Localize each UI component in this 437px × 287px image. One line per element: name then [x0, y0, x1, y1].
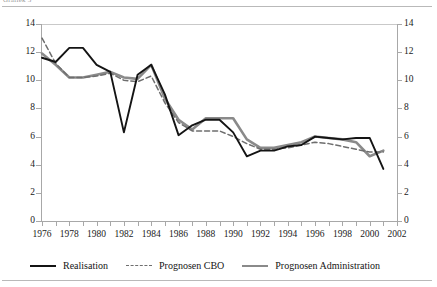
legend-item-prognosen-cbo[interactable]: Prognosen CBO: [126, 260, 224, 271]
x-tick-1993: [274, 221, 275, 226]
x-tick-1981: [110, 221, 111, 226]
y-tick-r-10: [397, 80, 402, 81]
x-tick-1977: [56, 221, 57, 226]
legend-label-prognosen-cbo: Prognosen CBO: [159, 260, 224, 271]
x-tick-1988: [206, 221, 207, 226]
y-axis-label-left-14: 14: [13, 19, 35, 29]
x-tick-2001: [383, 221, 384, 226]
y-axis-label-right-10: 10: [404, 75, 426, 85]
x-tick-1980: [97, 221, 98, 226]
x-tick-1989: [220, 221, 221, 226]
y-tick-l-4: [36, 165, 41, 166]
y-axis-label-right-4: 4: [404, 160, 426, 170]
y-tick-l-14: [36, 24, 41, 25]
y-tick-r-6: [397, 137, 402, 138]
y-tick-r-8: [397, 108, 402, 109]
series-line-prognosen-cbo: [42, 38, 383, 152]
legend-label-realisation: Realisation: [63, 260, 108, 271]
series-lines: [41, 24, 398, 222]
x-tick-1976: [42, 221, 43, 226]
y-axis-label-left-8: 8: [13, 103, 35, 113]
legend-swatch-prognosen-cbo: [126, 261, 152, 271]
legend-item-realisation[interactable]: Realisation: [30, 260, 108, 271]
y-axis-label-left-12: 12: [13, 47, 35, 57]
x-tick-1986: [179, 221, 180, 226]
x-tick-1979: [83, 221, 84, 226]
y-axis-label-right-14: 14: [404, 19, 426, 29]
series-line-realisation: [42, 48, 383, 169]
chart-legend: RealisationPrognosen CBOPrognosen Admini…: [0, 260, 437, 276]
x-tick-1994: [288, 221, 289, 226]
y-tick-r-12: [397, 52, 402, 53]
y-tick-l-8: [36, 108, 41, 109]
legend-row: RealisationPrognosen CBOPrognosen Admini…: [30, 260, 398, 271]
caption-divider: [2, 6, 432, 7]
y-axis-label-left-6: 6: [13, 132, 35, 142]
clipped-caption-text: Grafiek 3: [3, 0, 31, 4]
x-tick-1996: [315, 221, 316, 226]
y-tick-l-0: [36, 221, 41, 222]
x-tick-1983: [138, 221, 139, 226]
x-tick-2000: [370, 221, 371, 226]
y-axis-label-left-0: 0: [13, 216, 35, 226]
x-tick-1998: [342, 221, 343, 226]
y-axis-label-left-4: 4: [13, 160, 35, 170]
x-tick-1999: [356, 221, 357, 226]
series-line-prognosen-administration: [42, 54, 383, 157]
y-axis-label-right-8: 8: [404, 103, 426, 113]
figure-container: Grafiek 3 0022446688101012121414 1976197…: [0, 0, 437, 287]
x-tick-1985: [165, 221, 166, 226]
y-tick-l-12: [36, 52, 41, 53]
y-axis-label-right-2: 2: [404, 188, 426, 198]
x-tick-1987: [192, 221, 193, 226]
x-tick-1991: [247, 221, 248, 226]
legend-swatch-prognosen-administration: [242, 261, 268, 271]
legend-label-prognosen-administration: Prognosen Administration: [275, 260, 380, 271]
y-tick-l-6: [36, 137, 41, 138]
plot-area: [41, 24, 398, 222]
y-tick-l-10: [36, 80, 41, 81]
x-tick-2002: [397, 221, 398, 226]
legend-swatch-realisation: [30, 261, 56, 271]
x-axis-label-2002: 2002: [377, 230, 417, 240]
y-tick-r-4: [397, 165, 402, 166]
y-tick-l-2: [36, 193, 41, 194]
legend-divider: [2, 280, 432, 281]
y-axis-label-right-12: 12: [404, 47, 426, 57]
x-tick-1990: [233, 221, 234, 226]
x-tick-1984: [151, 221, 152, 226]
x-tick-1992: [260, 221, 261, 226]
x-tick-1978: [69, 221, 70, 226]
y-axis-label-right-0: 0: [404, 216, 426, 226]
y-tick-r-14: [397, 24, 402, 25]
legend-item-prognosen-administration[interactable]: Prognosen Administration: [242, 260, 380, 271]
y-axis-label-left-2: 2: [13, 188, 35, 198]
x-tick-1997: [329, 221, 330, 226]
y-axis-label-left-10: 10: [13, 75, 35, 85]
x-tick-1995: [301, 221, 302, 226]
y-axis-label-right-6: 6: [404, 132, 426, 142]
x-tick-1982: [124, 221, 125, 226]
y-tick-r-2: [397, 193, 402, 194]
